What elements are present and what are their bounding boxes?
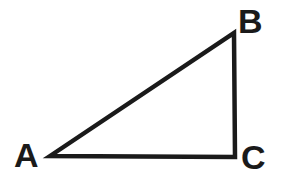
geometry-figure: A B C [0,0,283,186]
vertex-label-a: A [14,138,39,172]
vertex-label-b: B [238,4,263,38]
vertex-label-c: C [241,140,266,174]
